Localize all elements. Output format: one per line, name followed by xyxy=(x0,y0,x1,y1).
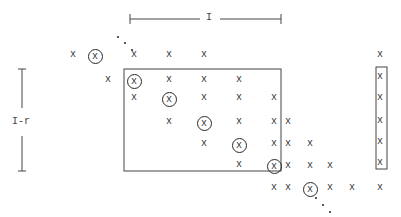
matrix-entry: x xyxy=(374,116,386,128)
ellipsis-dot xyxy=(322,204,324,206)
matrix-entry: x xyxy=(268,139,280,151)
ellipsis-dot xyxy=(117,36,119,38)
matrix-entry: x xyxy=(324,161,336,173)
matrix-entry: x xyxy=(233,160,245,172)
matrix-entry: x xyxy=(233,117,245,129)
matrix-entry: x xyxy=(304,139,316,151)
matrix-entry: x xyxy=(198,139,210,151)
circled-entry: x xyxy=(88,49,103,64)
matrix-entry: x xyxy=(268,93,280,105)
diagram-lines xyxy=(0,0,401,217)
matrix-entry: x xyxy=(67,50,79,62)
circled-entry: x xyxy=(127,74,142,89)
matrix-entry: x xyxy=(282,161,294,173)
matrix-entry: x xyxy=(102,75,114,87)
ellipsis-dots xyxy=(117,36,331,213)
top-brace-label: I xyxy=(204,12,214,23)
matrix-entry: x xyxy=(374,93,386,105)
matrix-entry: x xyxy=(233,75,245,87)
matrix-entry: x xyxy=(346,183,358,195)
matrix-entry: x xyxy=(163,117,175,129)
matrix-entry: x xyxy=(374,183,386,195)
matrix-entry: x xyxy=(163,50,175,62)
matrix-entry: x xyxy=(304,161,316,173)
circled-entry: x xyxy=(162,92,177,107)
matrix-entry: x xyxy=(128,50,140,62)
left-brace-label: I-r xyxy=(10,116,32,127)
matrix-entry: x xyxy=(324,183,336,195)
matrix-entry: x xyxy=(374,50,386,62)
matrix-entry: x xyxy=(198,93,210,105)
matrix-diagram: I I-r xxxxxxxxxxxxxxxxxxxxxxxxxxxxxxxxxx… xyxy=(0,0,401,217)
matrix-entry: x xyxy=(233,93,245,105)
ellipsis-dot xyxy=(329,211,331,213)
circled-entry: x xyxy=(232,138,247,153)
circled-entry: x xyxy=(267,159,282,174)
ellipsis-dot xyxy=(315,197,317,199)
matrix-entry: x xyxy=(374,137,386,149)
matrix-entry: x xyxy=(163,75,175,87)
circled-entry: x xyxy=(303,182,318,197)
matrix-entry: x xyxy=(374,72,386,84)
matrix-entry: x xyxy=(198,50,210,62)
circled-entry: x xyxy=(197,116,212,131)
matrix-entry: x xyxy=(282,117,294,129)
matrix-entry: x xyxy=(374,158,386,170)
matrix-entry: x xyxy=(282,183,294,195)
matrix-entry: x xyxy=(198,75,210,87)
ellipsis-dot xyxy=(124,42,126,44)
matrix-entry: x xyxy=(268,117,280,129)
matrix-entry: x xyxy=(128,93,140,105)
matrix-entry: x xyxy=(268,183,280,195)
matrix-entry: x xyxy=(282,139,294,151)
